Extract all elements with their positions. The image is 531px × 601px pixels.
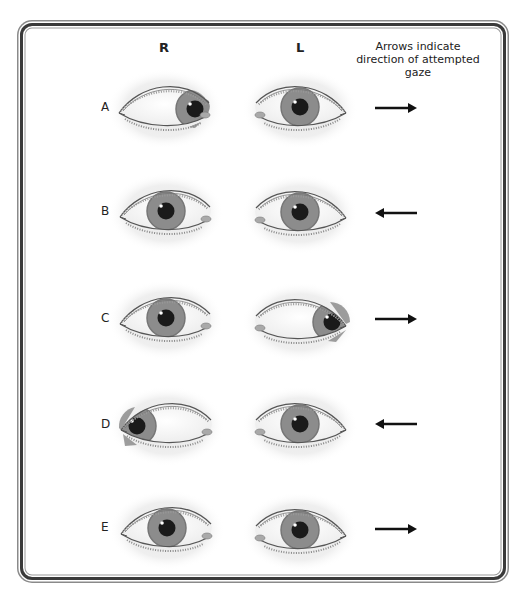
row-b-left-eye [242, 174, 358, 254]
row-a-left-eye [242, 69, 358, 149]
row-e-right-eye [109, 490, 225, 570]
arrow-left-icon [375, 419, 417, 429]
arrow-right-icon [375, 524, 417, 534]
row-c-right-eye [108, 280, 224, 360]
arrow-left-icon [375, 208, 417, 218]
row-b-right-eye [108, 173, 224, 253]
row-d-left-eye [242, 386, 358, 466]
row-e-left-eye [242, 492, 358, 572]
row-d-right-eye [109, 386, 225, 466]
arrow-right-icon [375, 314, 417, 324]
eyes-diagram [0, 0, 531, 601]
row-c-left-eye [242, 282, 358, 362]
arrow-right-icon [375, 103, 417, 113]
row-a-right-eye [107, 69, 223, 149]
